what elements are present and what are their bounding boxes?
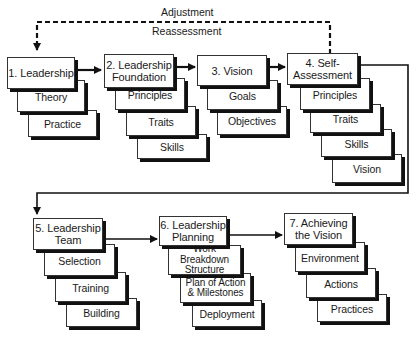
stage-6-title-box: 6. LeadershipPlanning [159, 216, 227, 246]
stage-7-title-box: 7. Achievingthe Vision [284, 213, 353, 245]
item-label: Goals [229, 91, 256, 102]
item-label-line: Plan of Action [186, 277, 246, 288]
stage-title-line: the Vision [295, 229, 342, 241]
stage-3-title-box: 3. Vision [197, 55, 267, 86]
stage-title-line: 6. Leadership [160, 219, 225, 231]
item-label: Plan of Action& Milestones [186, 278, 246, 299]
stage-title-line: Team [55, 234, 82, 246]
stage-2-item-skills: Skills [137, 134, 207, 159]
item-label: Principles [128, 90, 173, 101]
stage-title: 3. Vision [211, 65, 252, 77]
stage-2-title-box: 2. LeadershipFoundation [104, 54, 174, 88]
item-label: Work BreakdownStructure [169, 244, 240, 276]
item-label-line: Structure [185, 264, 225, 275]
stage-7-item-practices: Practices [317, 294, 387, 322]
stage-title: 2. LeadershipFoundation [106, 59, 171, 83]
stage-title-line: 7. Achieving [289, 217, 347, 229]
item-label: Environment [301, 253, 359, 264]
item-label: Practice [44, 119, 81, 130]
leadership-process-diagram: Adjustment Reassessment Practice Theory … [0, 0, 417, 337]
item-label: Deployment [199, 309, 254, 320]
stage-2-item-traits: Traits [126, 106, 196, 136]
stage-title-line: 4. Self- [305, 57, 339, 69]
item-label: Theory [35, 92, 67, 103]
stage-title-line: Planning [172, 231, 214, 243]
item-label: Selection [58, 256, 100, 267]
item-label: Traits [148, 117, 173, 128]
item-label: Actions [324, 279, 358, 290]
stage-title: 5. LeadershipTeam [35, 222, 100, 246]
item-label-line: & Milestones [187, 287, 243, 298]
item-label: Vision [353, 164, 381, 175]
stage-6-item-plan-of-action: Plan of Action& Milestones [180, 273, 251, 303]
stage-1-item-practice: Practice [28, 110, 97, 137]
item-label: Building [83, 308, 120, 319]
stage-7-item-actions: Actions [306, 268, 376, 298]
item-label-line: Work Breakdown [180, 243, 229, 265]
stage-3-item-objectives: Objectives [217, 106, 287, 135]
stage-1-title-box: 1. Leadership [7, 57, 75, 89]
stage-title-line: Foundation [112, 71, 166, 83]
stage-5-item-training: Training [55, 272, 126, 302]
stage-4-item-skills: Skills [321, 129, 392, 157]
item-label: Principles [313, 90, 358, 101]
stage-5-title-box: 5. LeadershipTeam [33, 218, 103, 250]
item-label: Skills [160, 142, 184, 153]
stage-title: 7. Achievingthe Vision [289, 217, 347, 241]
reassessment-label: Reassessment [152, 26, 221, 37]
stage-5-item-building: Building [66, 298, 137, 327]
item-label: Traits [333, 114, 358, 125]
stage-6-item-deployment: Deployment [192, 300, 262, 327]
stage-title-line: Assessment [293, 69, 352, 81]
stage-7-item-environment: Environment [295, 242, 365, 272]
item-label: Practices [331, 304, 373, 315]
item-label: Skills [345, 139, 369, 150]
stage-4-title-box: 4. Self-Assessment [287, 53, 358, 85]
stage-4-item-vision: Vision [332, 154, 402, 183]
item-label: Objectives [228, 116, 276, 127]
stage-title: 6. LeadershipPlanning [160, 219, 225, 243]
stage-title-line: 5. Leadership [35, 222, 100, 234]
stage-title-line: 2. Leadership [106, 59, 171, 71]
adjustment-label: Adjustment [161, 7, 214, 18]
stage-6-item-work-breakdown: Work BreakdownStructure [168, 245, 241, 275]
item-label: Training [72, 283, 109, 294]
stage-title: 1. Leadership [8, 67, 73, 79]
stage-title: 4. Self-Assessment [293, 57, 352, 81]
